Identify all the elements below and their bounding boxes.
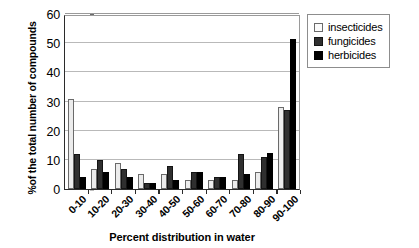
x-axis-tick-mark — [276, 190, 277, 194]
bar-group — [112, 16, 135, 189]
bars-layer — [65, 16, 299, 189]
bar-group — [252, 16, 275, 189]
bar-group — [229, 16, 252, 189]
y-axis-tick-label: 0 — [53, 184, 60, 197]
bar-group — [65, 16, 88, 189]
bar-herbicides-20-30[interactable] — [127, 177, 133, 189]
x-axis-tick-mark — [111, 190, 112, 194]
x-axis-tick-mark — [206, 190, 207, 194]
x-axis-tick-mark — [300, 190, 301, 194]
legend-label: herbicides — [328, 50, 376, 61]
plot-area — [64, 15, 300, 190]
y-axis-tick-label: 30 — [46, 96, 60, 109]
legend-swatch-icon — [314, 51, 323, 60]
bar-group — [276, 16, 299, 189]
bar-herbicides-0-10[interactable] — [80, 177, 86, 189]
legend-item-herbicides[interactable]: herbicides — [314, 48, 382, 62]
bar-herbicides-90-100[interactable] — [290, 39, 296, 189]
legend-label: insecticides — [328, 22, 382, 33]
legend-item-fungicides[interactable]: fungicides — [314, 34, 382, 48]
gridline — [65, 13, 299, 14]
bar-chart-figure: %of the total number of compounds 010203… — [0, 0, 419, 248]
bar-herbicides-30-40[interactable] — [150, 183, 156, 189]
bar-group — [135, 16, 158, 189]
bar-group — [205, 16, 228, 189]
legend-swatch-icon — [314, 37, 323, 46]
bar-herbicides-10-20[interactable] — [103, 172, 109, 190]
x-axis-title: Percent distribution in water — [64, 231, 300, 243]
legend: insecticidesfungicidesherbicides — [307, 14, 390, 68]
bar-group — [88, 16, 111, 189]
bar-group — [159, 16, 182, 189]
x-axis-tick-mark — [158, 190, 159, 194]
x-axis-tick-mark — [182, 190, 183, 194]
legend-label: fungicides — [328, 36, 376, 47]
bar-group — [182, 16, 205, 189]
bar-herbicides-40-50[interactable] — [173, 180, 179, 189]
y-axis-tick-label: 20 — [46, 125, 60, 138]
x-axis-tick-mark — [253, 190, 254, 194]
y-axis-tick-label: 10 — [46, 155, 60, 168]
x-axis-tick-mark — [135, 190, 136, 194]
y-axis-tick-label: 60 — [46, 9, 60, 22]
bar-herbicides-80-90[interactable] — [267, 153, 273, 189]
legend-swatch-icon — [314, 23, 323, 32]
legend-item-insecticides[interactable]: insecticides — [314, 20, 382, 34]
bar-herbicides-70-80[interactable] — [244, 174, 250, 189]
x-axis-ticklabels: 0-1010-2020-3030-4040-5050-6060-7070-808… — [64, 190, 300, 232]
x-axis-tick-mark — [88, 190, 89, 194]
bar-herbicides-50-60[interactable] — [197, 172, 203, 190]
bar-herbicides-60-70[interactable] — [220, 177, 226, 189]
y-axis-tick-label: 50 — [46, 38, 60, 51]
y-axis-ticklabels: 0102030405060 — [30, 15, 60, 190]
x-axis-tick-mark — [229, 190, 230, 194]
y-axis-tick-label: 40 — [46, 67, 60, 80]
